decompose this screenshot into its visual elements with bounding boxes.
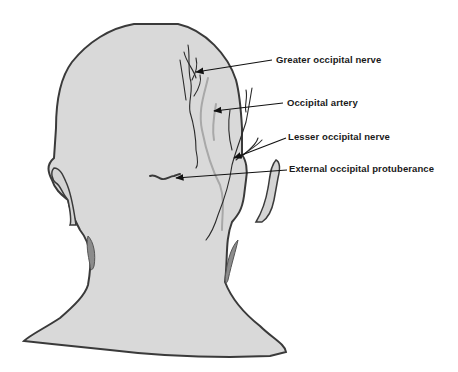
head-illustration — [0, 0, 458, 372]
label-occipital-artery: Occipital artery — [287, 97, 358, 108]
right-ear — [256, 160, 279, 222]
label-lesser-occipital-nerve: Lesser occipital nerve — [288, 131, 390, 142]
label-greater-occipital-nerve: Greater occipital nerve — [276, 54, 381, 65]
diagram-canvas: Greater occipital nerve Occipital artery… — [0, 0, 458, 372]
label-external-occipital-protuberance: External occipital protuberance — [289, 163, 434, 174]
